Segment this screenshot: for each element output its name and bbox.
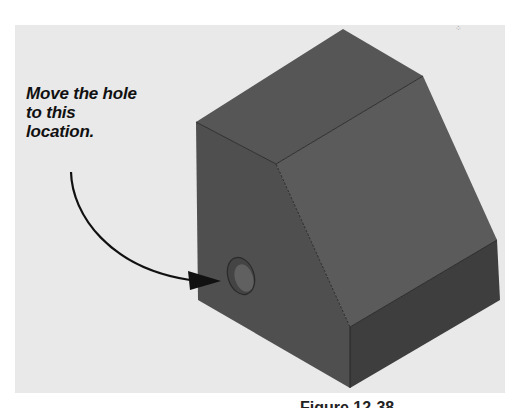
figure-caption: Figure 12-38 (300, 398, 394, 408)
callout-line-1: Move the hole (26, 84, 137, 103)
callout-text: Move the hole to this location. (26, 84, 137, 141)
block-diagram (0, 0, 521, 408)
scan-artifact: ⁘ (455, 24, 461, 30)
callout-line-3: location. (26, 122, 137, 141)
callout-line-2: to this (26, 103, 137, 122)
